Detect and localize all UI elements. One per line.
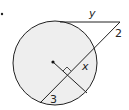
label-tangent-y: y	[88, 7, 96, 20]
label-chord-x: x	[81, 60, 89, 73]
geometry-diagram: y 2 x 3	[0, 0, 129, 110]
label-secant-external-2: 2	[115, 27, 122, 40]
bullet-marker	[1, 13, 3, 15]
center-point	[51, 60, 54, 63]
label-chord-3: 3	[50, 93, 57, 106]
